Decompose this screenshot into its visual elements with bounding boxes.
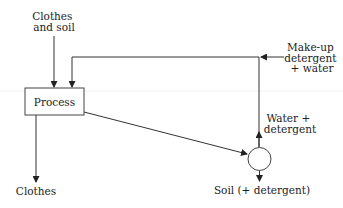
input-label-clothes-and-soil: Clothes and soil <box>32 10 76 33</box>
makeup-label: Make-up detergent + water <box>284 41 340 74</box>
process-label: Process <box>34 96 75 108</box>
recycle-label: Water + detergent <box>264 112 317 135</box>
flow-diagram: Clothes and soil Make-up detergent + wat… <box>0 0 343 208</box>
output-label-clothes: Clothes <box>16 185 56 197</box>
diagram-canvas: Clothes and soil Make-up detergent + wat… <box>0 0 343 208</box>
arrow-process-to-separator <box>84 112 247 154</box>
output-label-soil: Soil (+ detergent) <box>214 184 310 196</box>
separator-circle <box>248 148 271 171</box>
